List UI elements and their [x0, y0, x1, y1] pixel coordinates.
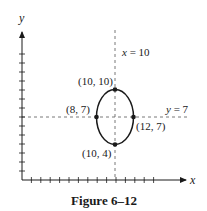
- point-12-7: [131, 115, 136, 120]
- reference-label-y-7: y = 7: [165, 103, 189, 115]
- point-10-4: [113, 142, 118, 147]
- figure-canvas: (10, 10) (8, 7) (12, 7) (10, 4) x = 10 y…: [0, 0, 207, 211]
- ellipse-figure: (10, 10) (8, 7) (12, 7) (10, 4) x = 10 y…: [0, 0, 207, 211]
- x-axis-label: x: [189, 173, 196, 187]
- point-label-10-4: (10, 4): [82, 147, 112, 160]
- reference-label-x-10: x = 10: [121, 46, 150, 58]
- point-label-8-7: (8, 7): [66, 103, 90, 116]
- point-8-7: [94, 115, 99, 120]
- point-label-12-7: (12, 7): [136, 120, 166, 133]
- figure-caption: Figure 6–12: [71, 193, 137, 208]
- point-label-10-10: (10, 10): [78, 75, 113, 88]
- y-axis-label: y: [18, 11, 25, 25]
- point-10-10: [113, 87, 118, 92]
